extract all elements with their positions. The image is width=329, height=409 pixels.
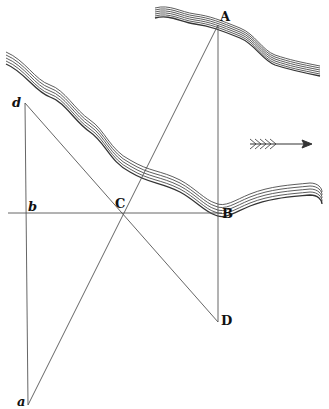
label-A: A	[219, 9, 231, 24]
label-D: D	[221, 313, 232, 328]
arrow-right-icon	[250, 139, 312, 149]
near-river-bank	[6, 52, 322, 217]
label-B: B	[222, 206, 233, 221]
river-diagram: A B C D d b a	[0, 0, 329, 409]
far-river-bank	[155, 7, 320, 76]
label-d: d	[12, 95, 21, 110]
label-C: C	[115, 196, 125, 211]
line-d-D	[25, 103, 218, 322]
line-d-a	[25, 103, 28, 405]
label-a: a	[17, 394, 25, 409]
line-A-a	[28, 25, 218, 405]
label-b: b	[28, 199, 37, 214]
